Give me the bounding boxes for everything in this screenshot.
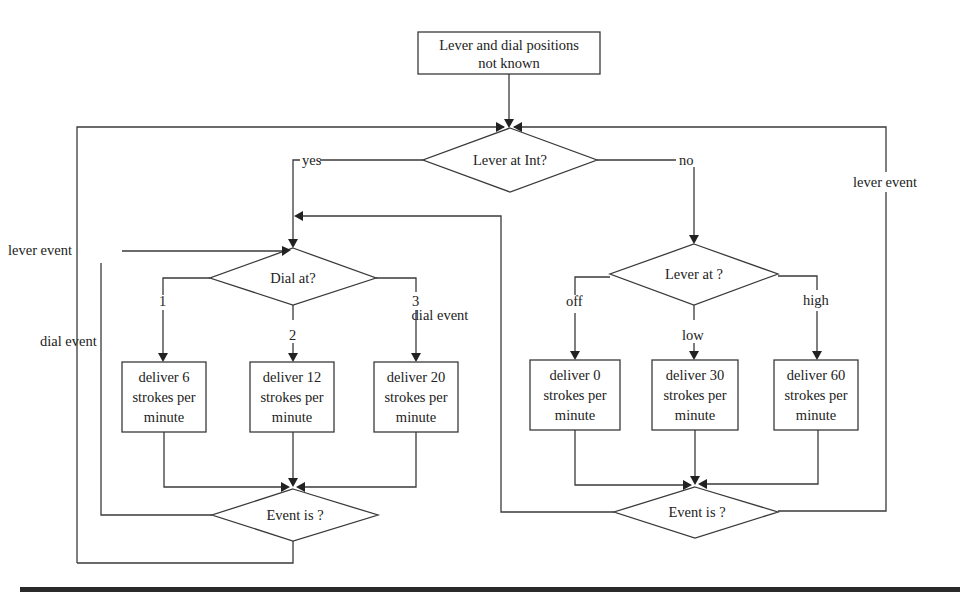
- action-deliver-6: deliver 6 strokes per minute: [122, 362, 206, 432]
- start-line-2: not known: [478, 55, 540, 71]
- action-line: minute: [396, 409, 436, 425]
- action-deliver-20: deliver 20 strokes per minute: [374, 362, 458, 432]
- branch-label-dial-1: 1: [159, 293, 166, 309]
- arrow-head-icon: [689, 235, 699, 244]
- action-line: minute: [144, 409, 184, 425]
- action-line: minute: [272, 409, 312, 425]
- action-deliver-30: deliver 30 strokes per minute: [652, 360, 738, 430]
- connector: [501, 485, 614, 512]
- decision-event-right: Event is ?: [614, 487, 778, 538]
- arrow-head-icon: [288, 239, 298, 248]
- arrow-head-icon: [504, 119, 514, 128]
- action-line: minute: [555, 407, 595, 423]
- connector: [163, 278, 210, 295]
- decision-event-left-label: Event is ?: [266, 507, 323, 523]
- decision-event-left: Event is ?: [212, 489, 378, 541]
- action-line: minute: [796, 407, 836, 423]
- decision-event-right-label: Event is ?: [668, 504, 725, 520]
- action-line: deliver 0: [549, 367, 600, 383]
- branch-label-low: low: [682, 327, 704, 343]
- action-deliver-60: deliver 60 strokes per minute: [774, 360, 858, 430]
- decision-dial-at-label: Dial at?: [270, 270, 316, 286]
- branch-label-no: no: [679, 152, 694, 168]
- connector: [778, 276, 817, 290]
- loop-label-right-lever-event: lever event: [853, 174, 917, 190]
- right-dial-event-loop: [300, 216, 501, 485]
- arrow-head-icon: [411, 353, 421, 362]
- page-rule: [20, 587, 960, 592]
- connector: [704, 430, 818, 484]
- action-line: strokes per: [784, 387, 847, 403]
- connector: [376, 278, 416, 292]
- arrow-head-icon: [690, 476, 700, 485]
- connector: [293, 160, 300, 241]
- action-line: deliver 60: [787, 367, 845, 383]
- action-deliver-0: deliver 0 strokes per minute: [530, 360, 620, 430]
- loop-label-right-dial-event: dial event: [412, 307, 469, 323]
- action-line: deliver 12: [263, 369, 321, 385]
- connector: [575, 430, 686, 485]
- start-node: Lever and dial positions not known: [418, 32, 600, 74]
- left-bottom-loop: [77, 541, 293, 563]
- flowchart: Lever and dial positions not known Lever…: [0, 0, 975, 594]
- start-line-1: Lever and dial positions: [439, 37, 579, 53]
- decision-dial-at: Dial at?: [210, 248, 376, 305]
- branch-label-high: high: [803, 292, 830, 308]
- loop-label-left-lever-event: lever event: [8, 242, 72, 258]
- decision-lever-int-label: Lever at Int?: [473, 152, 547, 168]
- branch-label-yes: yes: [302, 152, 322, 168]
- arrow-head-icon: [288, 478, 298, 487]
- arrow-head-icon: [158, 353, 168, 362]
- connector: [302, 432, 416, 487]
- action-line: strokes per: [384, 389, 447, 405]
- loop-label-left-dial-event: dial event: [40, 333, 97, 349]
- action-line: deliver 6: [138, 369, 189, 385]
- arrow-head-icon: [294, 211, 303, 221]
- arrow-head-icon: [812, 351, 822, 360]
- action-line: deliver 20: [387, 369, 445, 385]
- connector: [778, 482, 886, 511]
- arrow-head-icon: [698, 479, 707, 489]
- arrow-head-icon: [570, 351, 580, 360]
- action-line: deliver 30: [666, 367, 724, 383]
- action-line: strokes per: [132, 389, 195, 405]
- action-line: strokes per: [260, 389, 323, 405]
- connector: [164, 432, 284, 487]
- branch-label-dial-3: 3: [412, 293, 419, 309]
- decision-lever-int: Lever at Int?: [423, 128, 597, 192]
- branch-label-off: off: [566, 293, 583, 309]
- branch-label-dial-2: 2: [289, 327, 296, 343]
- decision-lever-at-label: Lever at ?: [665, 266, 723, 282]
- arrow-head-icon: [288, 353, 298, 362]
- action-deliver-12: deliver 12 strokes per minute: [250, 362, 334, 432]
- action-line: strokes per: [663, 387, 726, 403]
- arrow-head-icon: [689, 351, 699, 360]
- action-line: strokes per: [543, 387, 606, 403]
- action-line: minute: [675, 407, 715, 423]
- decision-lever-at: Lever at ?: [610, 244, 778, 305]
